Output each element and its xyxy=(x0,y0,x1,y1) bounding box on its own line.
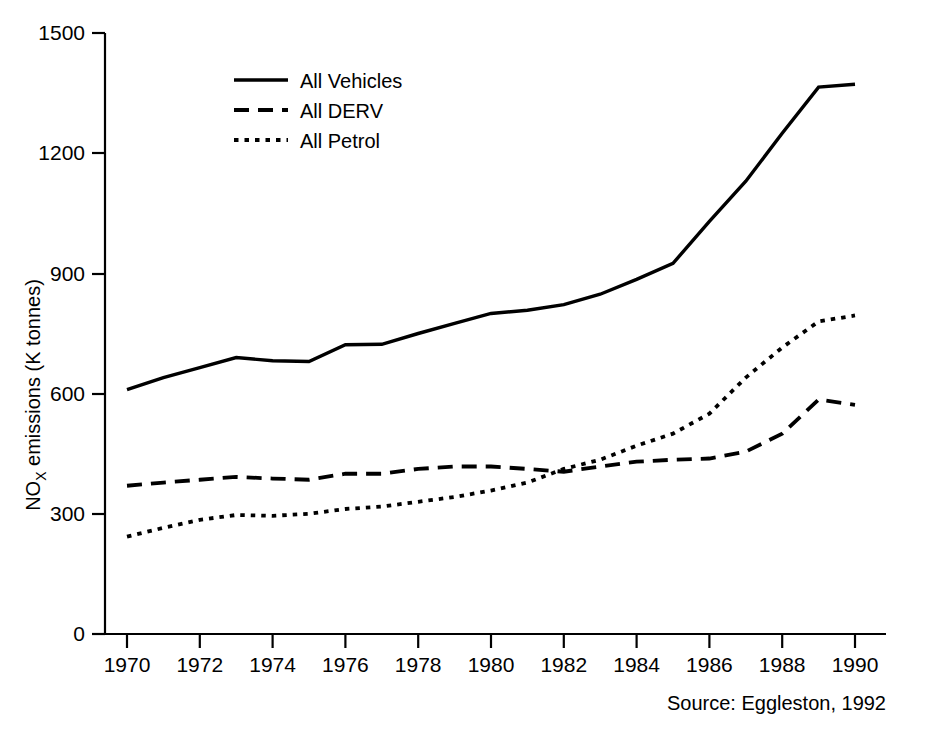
source-note: Source: Eggleston, 1992 xyxy=(667,692,886,714)
y-axis-title: NOX emissions (K tonnes) xyxy=(22,279,49,511)
x-tick-label-1990: 1990 xyxy=(832,653,879,676)
x-tick-label-1984: 1984 xyxy=(613,653,660,676)
chart-legend: All Vehicles All DERV All Petrol xyxy=(234,70,402,152)
y-axis-title-prefix: NO xyxy=(22,481,44,511)
x-tick-label-1970: 1970 xyxy=(104,653,151,676)
axis-lines xyxy=(105,33,886,634)
y-tick-label-300: 300 xyxy=(50,502,85,525)
chart-figure: Road Transport NOx Emissions by Vehicle … xyxy=(0,0,928,736)
series-line-all-vehicles xyxy=(127,84,855,389)
x-axis-ticks: 1970197219741976197819801982198419861988… xyxy=(104,634,879,676)
x-tick-label-1972: 1972 xyxy=(176,653,223,676)
y-tick-label-1200: 1200 xyxy=(38,141,85,164)
x-tick-label-1978: 1978 xyxy=(395,653,442,676)
x-tick-label-1988: 1988 xyxy=(759,653,806,676)
series-line-all-petrol xyxy=(127,315,855,536)
y-tick-label-900: 900 xyxy=(50,262,85,285)
series-group xyxy=(127,84,855,536)
x-tick-label-1974: 1974 xyxy=(249,653,296,676)
legend-label-all-petrol: All Petrol xyxy=(300,130,380,152)
y-axis-title-main: emissions (K tonnes) xyxy=(22,279,44,466)
chart-svg: NOX emissions (K tonnes) 0 300 600 900 1… xyxy=(0,0,928,736)
y-tick-label-600: 600 xyxy=(50,382,85,405)
x-tick-label-1976: 1976 xyxy=(322,653,369,676)
legend-label-all-derv: All DERV xyxy=(300,100,384,122)
series-line-all-derv xyxy=(127,400,855,486)
legend-label-all-vehicles: All Vehicles xyxy=(300,70,402,92)
y-axis-title-text: NOX emissions (K tonnes) xyxy=(22,279,49,511)
x-tick-label-1986: 1986 xyxy=(686,653,733,676)
x-tick-label-1980: 1980 xyxy=(468,653,515,676)
x-tick-label-1982: 1982 xyxy=(540,653,587,676)
y-axis-ticks: 0 300 600 900 1200 1500 xyxy=(38,21,105,645)
y-tick-label-0: 0 xyxy=(73,622,85,645)
y-tick-label-1500: 1500 xyxy=(38,21,85,44)
